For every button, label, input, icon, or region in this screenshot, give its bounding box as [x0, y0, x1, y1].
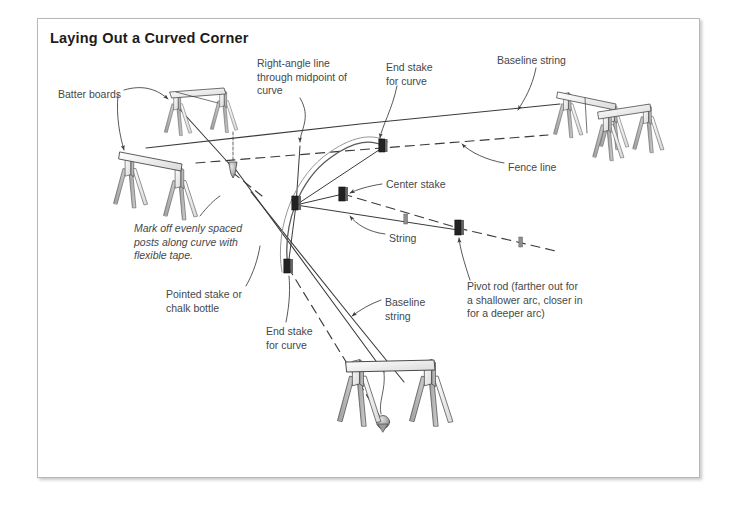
label-center-stake: Center stake — [386, 178, 446, 192]
plumb-bob-bottom — [377, 372, 390, 432]
post-mark-2 — [519, 237, 523, 247]
stake-pivot-rod — [455, 220, 464, 235]
batter-board-bottom — [338, 360, 453, 426]
leader-string — [350, 216, 385, 234]
fence-line-left-short — [232, 172, 262, 196]
batter-board-lower-left — [114, 152, 198, 219]
stake-end-bottom — [284, 259, 293, 273]
batter-board-upper-left — [164, 88, 237, 135]
label-end-stake-for-curve-bottom: End stake for curve — [266, 325, 313, 352]
leader-batter-boards-a — [124, 88, 168, 99]
label-right-angle-line: Right-angle line through midpoint of cur… — [257, 57, 347, 98]
stake-center — [339, 187, 348, 201]
leader-end-stake-top — [380, 86, 397, 138]
leader-end-stake-bottom — [286, 276, 290, 322]
leader-pivot-rod — [459, 238, 470, 280]
leader-center-stake — [350, 184, 382, 193]
curve-arc — [287, 142, 384, 267]
leader-mark-off-note — [200, 196, 220, 216]
stake-end-top — [379, 139, 388, 152]
diagram-artwork — [0, 0, 743, 510]
fence-line-upper — [196, 135, 548, 163]
post-mark-1 — [404, 214, 408, 224]
label-pointed-stake: Pointed stake or chalk bottle — [166, 288, 242, 315]
leader-right-angle-line — [300, 98, 305, 142]
leader-baseline-string-top — [518, 68, 536, 110]
leader-batter-boards-b — [117, 94, 124, 150]
label-end-stake-for-curve-top: End stake for curve — [386, 61, 433, 88]
label-string: String — [389, 232, 416, 246]
label-baseline-string-top: Baseline string — [497, 54, 566, 68]
label-mark-off-note: Mark off evenly spaced posts along curve… — [134, 222, 242, 263]
label-fence-line: Fence line — [508, 161, 556, 175]
fence-line-curve-right — [343, 194, 560, 252]
leader-fence-line — [462, 144, 504, 163]
label-baseline-string-bottom: Baseline string — [385, 296, 425, 323]
leader-pointed-stake — [246, 246, 260, 286]
label-pivot-rod: Pivot rod (farther out for a shallower a… — [467, 280, 583, 321]
baseline-string-main — [146, 104, 560, 148]
leader-baseline-string-bottom — [352, 300, 381, 316]
baseline-string-diag — [251, 192, 404, 382]
stake-curve-left — [292, 196, 301, 210]
label-batter-boards: Batter boards — [58, 88, 121, 102]
